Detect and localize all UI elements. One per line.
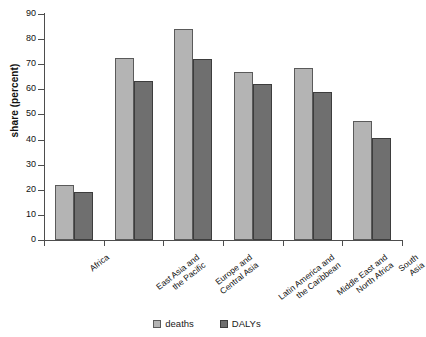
bar-group <box>294 14 332 240</box>
y-axis-tick-label: 50 <box>0 109 36 118</box>
legend-item-dalys[interactable]: DALYs <box>220 318 261 329</box>
y-axis-tick-label: 10 <box>0 210 36 219</box>
y-axis-tick-label: 90 <box>0 9 36 18</box>
x-axis-category-label: Latin America and the Caribbean <box>276 252 342 310</box>
x-axis-tick <box>402 241 403 246</box>
x-axis-tick <box>342 241 343 246</box>
bar-group <box>174 14 212 240</box>
bar-deaths[interactable] <box>294 68 313 240</box>
y-axis-tick-label: 70 <box>0 59 36 68</box>
bar-dalys[interactable] <box>253 84 272 240</box>
bar-group <box>353 14 391 240</box>
y-axis-tick-label: 20 <box>0 185 36 194</box>
y-axis-tick-label: 80 <box>0 34 36 43</box>
legend-swatch-deaths-icon <box>153 320 161 328</box>
x-axis-category-label: South Asia <box>388 252 426 288</box>
bar-group <box>115 14 153 240</box>
bar-deaths[interactable] <box>55 185 74 240</box>
x-axis-tick <box>223 241 224 246</box>
y-axis: 0102030405060708090 <box>0 0 44 337</box>
x-axis-category-label: Africa <box>87 252 110 273</box>
bar-group <box>234 14 272 240</box>
x-axis-tick <box>283 241 284 246</box>
x-axis-tick <box>163 241 164 246</box>
bar-group <box>55 14 93 240</box>
legend-swatch-dalys-icon <box>220 320 228 328</box>
bar-deaths[interactable] <box>234 72 253 240</box>
legend-label-deaths: deaths <box>165 318 194 329</box>
chart-legend: deaths DALYs <box>0 318 414 329</box>
legend-item-deaths[interactable]: deaths <box>153 318 194 329</box>
x-axis-tick <box>44 241 45 246</box>
y-axis-tick-label: 40 <box>0 135 36 144</box>
x-axis-category-label: East Asia and the Pacific <box>154 252 207 300</box>
y-axis-tick-label: 0 <box>0 235 36 244</box>
bar-deaths[interactable] <box>353 121 372 240</box>
x-axis-tick <box>104 241 105 246</box>
bar-deaths[interactable] <box>174 29 193 240</box>
bar-dalys[interactable] <box>372 138 391 240</box>
legend-label-dalys: DALYs <box>232 318 261 329</box>
bar-dalys[interactable] <box>74 192 93 240</box>
x-axis-category-label: Middle East and North Africa <box>334 252 394 305</box>
bars-layer <box>44 14 402 240</box>
y-axis-tick-label: 60 <box>0 84 36 93</box>
bar-deaths[interactable] <box>115 58 134 240</box>
bar-dalys[interactable] <box>193 59 212 240</box>
x-axis-category-label: Europe and Central Asia <box>212 252 260 296</box>
bar-dalys[interactable] <box>313 92 332 240</box>
bar-dalys[interactable] <box>134 81 153 240</box>
y-axis-tick-label: 30 <box>0 160 36 169</box>
